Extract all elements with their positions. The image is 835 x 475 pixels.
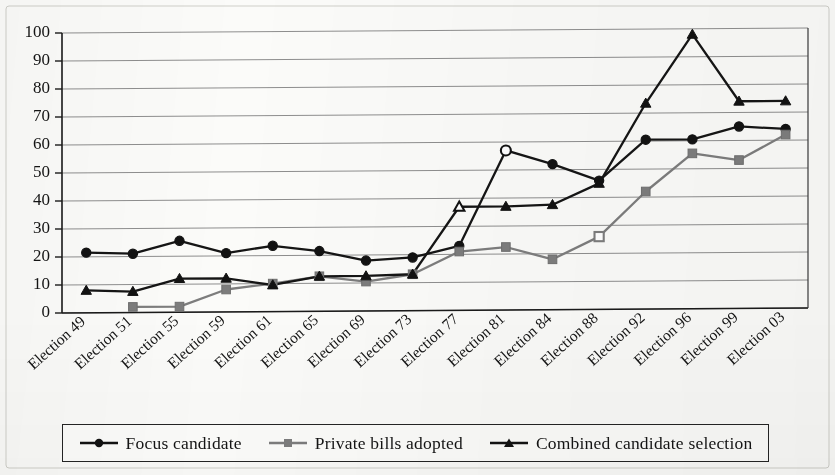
data-point-marker xyxy=(128,249,137,258)
data-point-marker xyxy=(688,135,697,144)
data-point-marker xyxy=(82,248,91,257)
y-tick-label: 20 xyxy=(33,246,50,265)
data-point-marker xyxy=(548,160,557,169)
chart-legend: Focus candidate Private bills adopted Co… xyxy=(62,424,769,462)
gridline xyxy=(62,168,808,173)
data-point-marker xyxy=(548,255,557,264)
y-tick-label: 70 xyxy=(33,106,50,125)
legend-item-private-bills-adopted[interactable]: Private bills adopted xyxy=(268,433,463,454)
data-point-marker xyxy=(502,243,511,252)
legend-marker-square-icon xyxy=(268,436,308,450)
data-point-marker xyxy=(222,285,231,294)
y-tick-label: 0 xyxy=(42,302,51,321)
data-point-marker xyxy=(688,149,697,158)
data-point-marker xyxy=(129,303,138,312)
gridline xyxy=(62,56,808,61)
data-point-marker xyxy=(455,247,464,256)
data-point-marker xyxy=(454,202,464,211)
data-point-marker xyxy=(735,156,744,165)
y-tick-label: 30 xyxy=(33,218,50,237)
data-point-marker xyxy=(408,253,417,262)
gridline xyxy=(62,112,808,117)
x-axis-line xyxy=(62,308,808,313)
line-chart-plot: 0102030405060708090100 Election 49Electi… xyxy=(0,0,835,475)
legend-label-combined-candidate-selection: Combined candidate selection xyxy=(536,433,753,454)
y-tick-label: 10 xyxy=(33,274,50,293)
y-tick-label: 60 xyxy=(33,134,50,153)
data-point-marker xyxy=(175,236,184,245)
data-point-marker xyxy=(641,187,650,196)
y-tick-label: 50 xyxy=(33,162,50,181)
gridline xyxy=(62,84,808,89)
legend-item-combined-candidate-selection[interactable]: Combined candidate selection xyxy=(489,433,753,454)
legend-label-private-bills-adopted: Private bills adopted xyxy=(315,433,463,454)
figure-border xyxy=(6,6,829,468)
axis-tickmarks xyxy=(55,33,62,313)
plot-frame xyxy=(6,6,829,468)
legend-item-focus-candidate[interactable]: Focus candidate xyxy=(79,433,242,454)
x-axis-tick-labels: Election 49Election 51Election 55Electio… xyxy=(24,308,788,373)
data-point-marker xyxy=(687,29,697,38)
legend-marker-triangle-icon xyxy=(489,436,529,450)
chart-container: 0102030405060708090100 Election 49Electi… xyxy=(0,0,835,475)
data-point-marker xyxy=(595,232,604,241)
legend-marker-circle-icon xyxy=(79,436,119,450)
data-point-marker xyxy=(222,249,231,258)
y-tick-label: 40 xyxy=(33,190,50,209)
y-tick-label: 80 xyxy=(33,78,50,97)
legend-label-focus-candidate: Focus candidate xyxy=(126,433,242,454)
y-tick-label: 90 xyxy=(33,50,50,69)
data-point-marker xyxy=(361,256,370,265)
data-point-marker xyxy=(641,135,650,144)
data-point-marker xyxy=(268,241,277,250)
gridline xyxy=(62,28,808,33)
y-axis-tick-labels: 0102030405060708090100 xyxy=(25,22,51,321)
gridline xyxy=(62,196,808,201)
data-point-marker xyxy=(501,145,511,155)
data-point-marker xyxy=(315,246,324,255)
data-point-marker xyxy=(175,302,184,311)
data-point-marker xyxy=(781,130,790,139)
y-tick-label: 100 xyxy=(25,22,51,41)
data-point-marker xyxy=(734,122,743,131)
gridline xyxy=(62,224,808,229)
gridlines xyxy=(62,28,808,313)
